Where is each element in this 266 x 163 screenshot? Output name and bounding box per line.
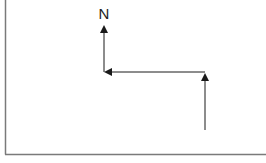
direction-diagram: N <box>0 0 266 163</box>
north-label: N <box>99 5 110 22</box>
